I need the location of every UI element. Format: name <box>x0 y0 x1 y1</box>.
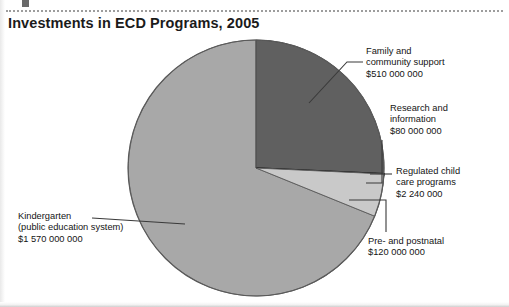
slice-value: $1 570 000 000 <box>18 234 123 245</box>
slice-label-line1: Research and <box>390 103 448 114</box>
slice-label-pre-and-postnatal: Pre- and postnatal $120 000 000 <box>368 236 444 259</box>
slice-value: $2 240 000 <box>396 189 460 200</box>
slice-label-kindergarten: Kindergarten (public education system) $… <box>18 211 123 245</box>
slice-label-research-information: Research and information $80 000 000 <box>390 103 448 137</box>
slice-label-line1: Pre- and postnatal <box>368 236 444 247</box>
slice-label-line2: (public education system) <box>18 222 123 233</box>
slice-value: $80 000 000 <box>390 126 448 137</box>
figure-container: Investments in ECD Programs, 2005 <box>0 0 509 307</box>
slice-label-line2: care programs <box>396 177 460 188</box>
slice-label-line1: Kindergarten <box>18 211 123 222</box>
slice-label-line1: Regulated child <box>396 166 460 177</box>
slice-value: $120 000 000 <box>368 247 444 258</box>
slice-label-family-community-support: Family and community support $510 000 00… <box>366 46 445 80</box>
pie-slice-family-community-support <box>256 40 384 189</box>
slice-label-regulated-child-care: Regulated child care programs $2 240 000 <box>396 166 460 200</box>
slice-label-line2: information <box>390 114 448 125</box>
page-bottom-edge <box>0 302 509 307</box>
slice-label-line1: Family and <box>366 46 445 57</box>
slice-value: $510 000 000 <box>366 69 445 80</box>
slice-label-line2: community support <box>366 57 445 68</box>
